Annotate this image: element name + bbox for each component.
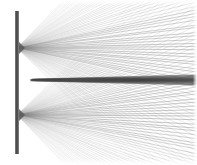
- ray-fan-figure: [0, 0, 197, 165]
- ray-fan-canvas: [0, 0, 197, 165]
